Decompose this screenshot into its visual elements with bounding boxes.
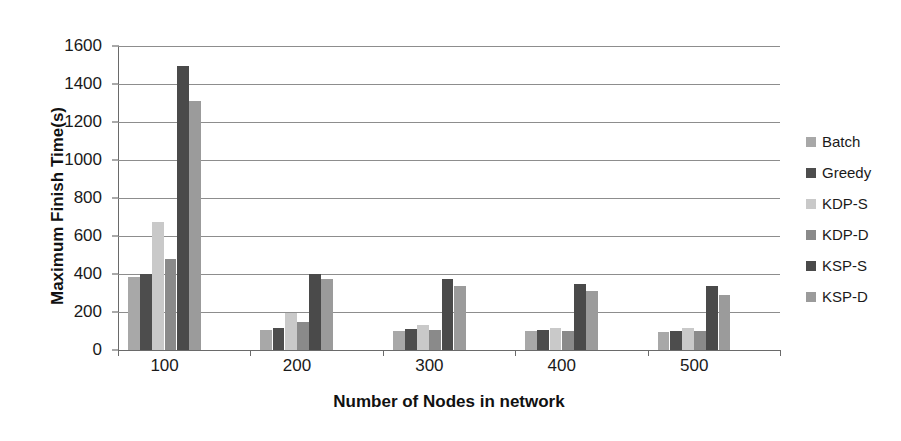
- bar: [550, 328, 562, 350]
- x-axis-tick-mark: [780, 350, 781, 356]
- bar: [694, 331, 706, 350]
- bar: [321, 279, 333, 350]
- bar: [285, 313, 297, 350]
- legend: BatchGreedyKDP-SKDP-DKSP-SKSP-D: [806, 126, 898, 312]
- legend-item[interactable]: KSP-D: [806, 281, 898, 312]
- y-axis-tick-label: 200: [40, 302, 102, 322]
- bar: [177, 66, 189, 350]
- bar: [417, 325, 429, 350]
- bar: [393, 331, 405, 350]
- y-axis-tick-label: 600: [40, 226, 102, 246]
- bar: [537, 330, 549, 350]
- y-axis-tick-label: 800: [40, 188, 102, 208]
- legend-item[interactable]: Greedy: [806, 157, 898, 188]
- plot-area: [118, 46, 780, 350]
- x-axis-tick-label: 400: [548, 356, 576, 376]
- bar-group: [658, 46, 731, 350]
- x-axis-tick-mark: [118, 350, 119, 356]
- bar: [260, 330, 272, 350]
- legend-label: Batch: [822, 133, 860, 150]
- bar: [658, 332, 670, 350]
- legend-label: KSP-S: [822, 257, 867, 274]
- y-axis-tick-label: 400: [40, 264, 102, 284]
- bar: [454, 286, 466, 350]
- bar: [189, 101, 201, 350]
- bar: [719, 295, 731, 350]
- x-axis-tick-label: 500: [680, 356, 708, 376]
- gridline: [118, 350, 780, 351]
- bar-group: [525, 46, 598, 350]
- bar: [297, 322, 309, 351]
- bar-group: [260, 46, 333, 350]
- x-axis-title: Number of Nodes in network: [118, 392, 780, 412]
- legend-swatch-icon: [806, 199, 816, 209]
- legend-item[interactable]: Batch: [806, 126, 898, 157]
- bar: [128, 277, 140, 350]
- y-axis-tick-label: 1400: [40, 74, 102, 94]
- x-axis-tick-labels: 100200300400500: [118, 356, 780, 382]
- legend-label: KDP-S: [822, 195, 868, 212]
- bar: [442, 279, 454, 350]
- bar: [165, 259, 177, 350]
- bar: [405, 329, 417, 350]
- legend-swatch-icon: [806, 137, 816, 147]
- bar: [670, 331, 682, 350]
- legend-label: KSP-D: [822, 288, 868, 305]
- y-axis-tick-label: 1600: [40, 36, 102, 56]
- x-axis-tick-mark: [383, 350, 384, 356]
- legend-item[interactable]: KSP-S: [806, 250, 898, 281]
- legend-label: KDP-D: [822, 226, 869, 243]
- bars-layer: [118, 46, 780, 350]
- bar: [682, 328, 694, 350]
- bar: [525, 331, 537, 350]
- bar-group: [393, 46, 466, 350]
- bar: [309, 274, 321, 350]
- x-axis-tick-mark: [250, 350, 251, 356]
- bar: [574, 284, 586, 351]
- bar: [140, 274, 152, 350]
- y-axis-tick-label: 1200: [40, 112, 102, 132]
- x-axis-tick-label: 300: [415, 356, 443, 376]
- bar: [586, 291, 598, 350]
- x-axis-tick-label: 200: [283, 356, 311, 376]
- x-axis-tick-label: 100: [150, 356, 178, 376]
- x-axis-tick-mark: [515, 350, 516, 356]
- bar: [273, 328, 285, 350]
- bar: [706, 286, 718, 350]
- legend-swatch-icon: [806, 292, 816, 302]
- bar: [152, 222, 164, 350]
- legend-label: Greedy: [822, 164, 871, 181]
- legend-swatch-icon: [806, 261, 816, 271]
- bar: [562, 331, 574, 350]
- y-axis-tick-labels: 16001400120010008006004002000: [42, 36, 110, 358]
- bar-chart: Maximum Finish Time(s) 16001400120010008…: [0, 0, 901, 441]
- legend-swatch-icon: [806, 230, 816, 240]
- bar: [429, 330, 441, 350]
- x-axis-tick-mark: [648, 350, 649, 356]
- y-axis-tick-label: 1000: [40, 150, 102, 170]
- y-axis-tick-label: 0: [40, 340, 102, 360]
- bar-group: [128, 46, 201, 350]
- legend-item[interactable]: KDP-D: [806, 219, 898, 250]
- legend-item[interactable]: KDP-S: [806, 188, 898, 219]
- legend-swatch-icon: [806, 168, 816, 178]
